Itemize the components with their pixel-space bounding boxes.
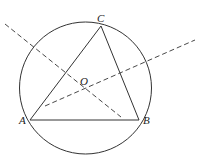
label-b: B xyxy=(143,115,150,126)
triangle-abc xyxy=(30,26,139,120)
label-a: A xyxy=(19,115,26,126)
perpendicular-bisector-bc xyxy=(45,40,195,106)
geometry-diagram xyxy=(0,0,207,162)
label-c: C xyxy=(97,13,104,24)
label-o: O xyxy=(80,76,88,87)
perpendicular-bisector-ac xyxy=(5,24,121,117)
